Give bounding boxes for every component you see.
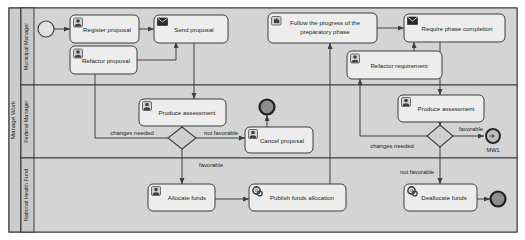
bpmn-svg-root: Manage Work Municipal Manager Federal Ma… — [0, 0, 525, 240]
user-task-icon — [143, 102, 152, 111]
task-label: Publish funds allocation — [270, 194, 334, 201]
task-label: Require phase completion — [422, 25, 493, 32]
task-follow-progress[interactable]: Follow the progress of the preparatory p… — [268, 13, 377, 43]
lane-label-municipal-manager: Municipal Manager — [23, 23, 29, 70]
lane-label-federal-manager: Federal Manager — [23, 100, 29, 143]
task-label: Refactor requirement — [370, 62, 428, 69]
task-require-phase-completion[interactable]: Require phase completion — [404, 14, 505, 42]
task-cancel-proposal[interactable]: Cancel proposal — [245, 127, 313, 153]
send-task-icon — [158, 18, 168, 26]
task-label: Produce assessment — [159, 109, 216, 116]
user-task-icon — [402, 98, 411, 107]
task-label-line2: preparatory phase — [300, 28, 350, 35]
task-refactor-requirement[interactable]: Refactor requirement — [347, 51, 442, 79]
manual-task-icon — [272, 17, 282, 26]
flow-label-favorable-left: favorable — [199, 162, 224, 168]
send-task-icon — [408, 17, 418, 25]
task-label: Deallocate funds — [421, 194, 466, 201]
end-event-cancel[interactable] — [260, 100, 275, 115]
task-label: Cancel proposal — [260, 137, 304, 144]
flow-label-changes-needed-left: changes needed — [110, 130, 154, 136]
task-register-proposal[interactable]: Register proposal — [70, 15, 139, 43]
task-produce-assessment-left[interactable]: Produce assessment — [139, 99, 226, 126]
end-event-mw1[interactable]: MW1 — [486, 129, 500, 153]
flow-label-not-favorable-left: not favorable — [204, 130, 239, 136]
lane-label-national-health-fund: National Health Fund — [23, 169, 29, 222]
task-produce-assessment-right[interactable]: Produce assessment — [398, 95, 484, 122]
pool-label: Manage Work — [9, 100, 16, 139]
task-label: Register proposal — [83, 26, 131, 33]
flow-label-changes-needed-right: changes needed — [370, 143, 414, 149]
task-label: Allocate funds — [168, 194, 206, 201]
task-deallocate-funds[interactable]: Deallocate funds — [404, 184, 477, 211]
end-event-mw1-label: MW1 — [486, 147, 499, 153]
task-label: Refactor proposal — [82, 57, 130, 64]
user-task-icon — [249, 130, 258, 139]
user-task-icon — [351, 54, 360, 63]
flow-label-not-favorable-right: not favorable — [400, 169, 435, 175]
task-label-line1: Follow the progress of the — [290, 19, 361, 26]
task-send-proposal[interactable]: Send proposal — [154, 15, 228, 43]
task-refactor-proposal[interactable]: Refactor proposal — [70, 46, 137, 74]
start-event[interactable] — [38, 21, 54, 37]
task-label: Send proposal — [174, 26, 213, 33]
bpmn-diagram-canvas: Manage Work Municipal Manager Federal Ma… — [0, 0, 525, 240]
task-publish-funds-allocation[interactable]: Publish funds allocation — [249, 184, 346, 211]
user-task-icon — [152, 187, 161, 196]
task-allocate-funds[interactable]: Allocate funds — [148, 184, 215, 211]
task-label: Produce assessment — [418, 105, 475, 112]
flow-label-favorable-right: favorable — [459, 126, 484, 132]
end-event-deallocate[interactable] — [491, 192, 506, 207]
user-task-icon — [74, 18, 83, 27]
